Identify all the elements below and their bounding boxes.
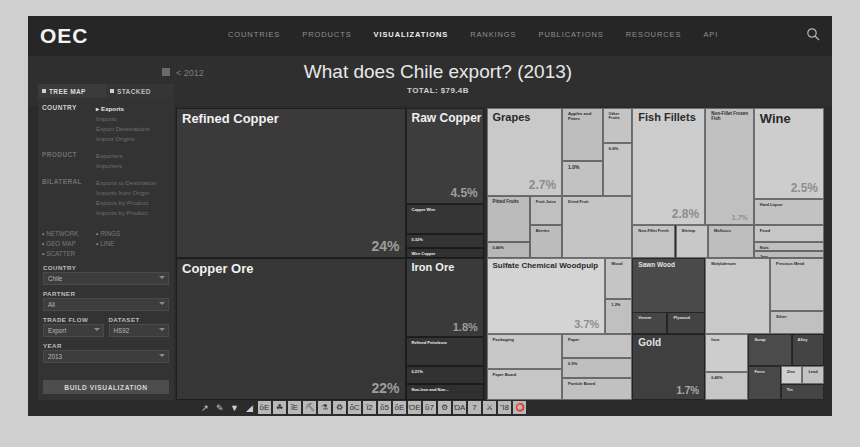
treemap-cell[interactable]: Veneer	[632, 312, 667, 334]
treemap-cell[interactable]: Refined Copper24%	[176, 108, 406, 258]
treemap-cell[interactable]: Berries	[530, 225, 562, 259]
partner-select[interactable]: All	[43, 298, 169, 311]
hides-skins-icon[interactable]: ὅC	[348, 401, 361, 414]
treemap-cell[interactable]: Paper Board	[487, 369, 563, 400]
nav-link-visualizations[interactable]: VISUALIZATIONS	[374, 30, 449, 39]
treemap-cell[interactable]: Gold1.7%	[632, 334, 705, 400]
treemap-cell[interactable]: Zinc	[781, 366, 803, 384]
instruments-icon[interactable]: ὏7	[468, 401, 481, 414]
treemap-cell[interactable]: Refined Petroleum	[406, 337, 484, 366]
treemap-cell[interactable]: Sulfate Chemical Woodpulp3.7%	[487, 258, 606, 334]
dataset-select[interactable]: HS92	[109, 324, 170, 337]
treemap-cell[interactable]: Pitted Fruits	[487, 196, 530, 243]
footwear-icon[interactable]: ὅE	[393, 401, 406, 414]
treemap-cell[interactable]: Molybdenum	[705, 258, 770, 334]
menu-item-imports[interactable]: Imports	[96, 114, 174, 124]
treemap-cell[interactable]: 0.46%	[487, 242, 530, 258]
textiles-icon[interactable]: ὅ5	[378, 401, 391, 414]
menu-item-imports-from-origin[interactable]: Imports from Origin	[96, 188, 174, 198]
treemap-cell[interactable]: 0.32%	[406, 234, 484, 249]
treemap-cell[interactable]: Precious Metal	[770, 258, 824, 311]
treemap-cell[interactable]: Lead	[802, 366, 824, 384]
menu-item-exports-to-destination[interactable]: Exports to Destination	[96, 178, 174, 188]
treemap-cell[interactable]: Alloy	[792, 334, 824, 366]
foodstuffs-icon[interactable]: ἵE	[288, 401, 301, 414]
treemap-cell[interactable]: Non-Iron and Non...	[406, 384, 484, 400]
treemap-cell[interactable]: Iron	[705, 334, 748, 372]
treemap-cell[interactable]: Wood	[605, 258, 632, 299]
cursor-icon[interactable]: ↗	[198, 401, 211, 414]
menu-item-imports-by-product[interactable]: Imports by Product	[96, 208, 174, 218]
nav-link-publications[interactable]: PUBLICATIONS	[539, 30, 604, 39]
treemap-cell[interactable]: 1.0%	[562, 161, 603, 196]
treemap-cell[interactable]: Raw Copper4.5%	[406, 108, 484, 204]
machinery-icon[interactable]: ⚙	[438, 401, 451, 414]
stone-glass-icon[interactable]: ὈE	[408, 401, 421, 414]
treemap-cell[interactable]: Particle Board	[562, 378, 632, 400]
tab-tree-map[interactable]: TREE MAP	[38, 84, 106, 98]
metals-icon[interactable]: ὒ7	[423, 401, 436, 414]
pointer-icon[interactable]: ◢	[243, 401, 256, 414]
menu-item-importers[interactable]: Importers	[96, 161, 174, 171]
nav-link-countries[interactable]: COUNTRIES	[228, 30, 280, 39]
viz-type-rings[interactable]: ▪RINGS	[96, 229, 156, 239]
search-icon[interactable]	[806, 27, 820, 41]
treemap-cell[interactable]: Wine2.5%	[754, 108, 824, 199]
nav-link-resources[interactable]: RESOURCES	[626, 30, 682, 39]
treemap-cell[interactable]: 0.45%	[705, 372, 748, 400]
chemicals-icon[interactable]: ⚗	[318, 401, 331, 414]
arts-antiques-icon[interactable]: Ἲ8	[498, 401, 511, 414]
treemap-cell[interactable]: Packaging	[487, 334, 563, 369]
treemap-cell[interactable]: 1.2%	[605, 299, 632, 334]
country-select[interactable]: Chile	[43, 272, 169, 285]
mineral-products-icon[interactable]: ⛏	[303, 401, 316, 414]
nav-link-products[interactable]: PRODUCTS	[302, 30, 351, 39]
treemap-cell[interactable]: 0.5%	[562, 358, 632, 378]
treemap-cell[interactable]: 0.21%	[406, 366, 484, 384]
treemap-cell[interactable]: Iron Ore1.8%	[406, 258, 484, 337]
treemap-cell[interactable]: Wire Copper	[406, 248, 484, 258]
treemap-cell[interactable]: Copper Ore22%	[176, 258, 406, 400]
menu-item-exports-by-product[interactable]: Exports by Product	[96, 198, 174, 208]
year-select[interactable]: 2013	[43, 350, 169, 363]
treemap-cell[interactable]: Paper	[562, 334, 632, 357]
tab-stacked[interactable]: STACKED	[106, 84, 174, 98]
oec-logo[interactable]: OEC	[40, 24, 89, 48]
treemap-cell[interactable]: Shrimp	[676, 225, 708, 259]
weapons-icon[interactable]: ⚔	[483, 401, 496, 414]
viz-type-scatter[interactable]: ▪SCATTER	[42, 249, 96, 259]
other-icon[interactable]: ⭕	[513, 401, 526, 414]
treemap-cell[interactable]: Nuts	[754, 242, 824, 251]
menu-item-import-origins[interactable]: Import Origins	[96, 134, 174, 144]
treemap-cell[interactable]: 0.6%	[603, 143, 633, 196]
menu-item-export-destinations[interactable]: Export Destinations	[96, 124, 174, 134]
treemap-cell[interactable]: Food	[754, 225, 824, 243]
treemap-cell[interactable]: Grapes2.7%	[487, 108, 563, 196]
panel-toggle-icon[interactable]	[162, 68, 170, 76]
trade-flow-select[interactable]: Export	[43, 324, 104, 337]
menu-item-exports[interactable]: Exports	[96, 104, 174, 114]
nav-link-rankings[interactable]: RANKINGS	[470, 30, 516, 39]
build-visualization-button[interactable]: BUILD VISUALIZATION	[43, 380, 169, 394]
treemap-cell[interactable]: Jam	[754, 251, 824, 258]
treemap-cell[interactable]: Ferro	[748, 366, 780, 400]
treemap-cell[interactable]: Fish Fillets2.8%	[632, 108, 705, 225]
treemap-cell[interactable]: Non-Fillet Fresh	[632, 225, 675, 259]
nav-link-api[interactable]: API	[703, 30, 718, 39]
treemap-cell[interactable]: Other Fruits	[603, 108, 633, 143]
treemap-cell[interactable]: Hard Liquor	[754, 199, 824, 225]
viz-type-geo-map[interactable]: ▪GEO MAP	[42, 239, 96, 249]
pencil-icon[interactable]: ✎	[213, 401, 226, 414]
wood-products-icon[interactable]: ἳ2	[363, 401, 376, 414]
viz-type-line[interactable]: ▪LINE	[96, 239, 156, 249]
menu-item-exporters[interactable]: Exporters	[96, 151, 174, 161]
vegetable-products-icon[interactable]: ☘	[273, 401, 286, 414]
treemap-cell[interactable]: Apples and Pears	[562, 108, 603, 161]
treemap-cell[interactable]: Fruit Juice	[530, 196, 562, 225]
transportation-icon[interactable]: ὩA	[453, 401, 466, 414]
treemap-cell[interactable]: Tin	[781, 384, 824, 400]
treemap-cell[interactable]: Copper Wire	[406, 204, 484, 233]
treemap-cell[interactable]: Silver	[770, 311, 824, 334]
treemap-cell[interactable]: Plywood	[667, 312, 705, 334]
funnel-icon[interactable]: ▼	[228, 401, 241, 414]
